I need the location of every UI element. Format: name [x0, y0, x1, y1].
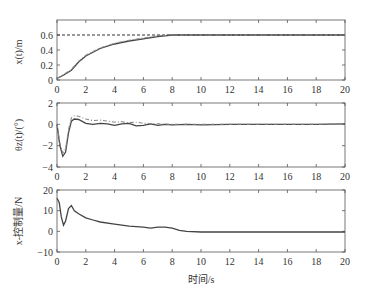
x-tick-label: 0 — [55, 171, 60, 182]
x-tick-label: 20 — [340, 256, 350, 267]
x-tick-label: 14 — [254, 171, 264, 182]
y-tick-label: 0.6 — [41, 30, 54, 41]
y-tick-label: 0.4 — [41, 45, 54, 56]
x-tick-label: 6 — [141, 256, 146, 267]
x-tick-label: 16 — [282, 256, 292, 267]
y-axis-label: θz(t)/(°) — [13, 119, 25, 151]
x-tick-label: 10 — [196, 256, 206, 267]
y-tick-label: −4 — [42, 162, 53, 173]
x-tick-label: 18 — [311, 171, 321, 182]
series-response-2 — [57, 116, 345, 153]
x-tick-label: 20 — [340, 84, 350, 95]
x-tick-label: 2 — [83, 171, 88, 182]
panel-control: 02468101214161820−1001020x-控制量/N — [12, 185, 350, 268]
panel-angle: 02468101214161820−4−202θz(t)/(°) — [13, 98, 350, 183]
x-tick-label: 8 — [170, 171, 175, 182]
x-tick-label: 10 — [196, 84, 206, 95]
x-tick-label: 18 — [311, 256, 321, 267]
x-tick-label: 14 — [254, 256, 264, 267]
plot-frame — [57, 20, 345, 80]
x-tick-label: 12 — [225, 84, 235, 95]
x-tick-label: 4 — [112, 256, 117, 267]
x-tick-label: 4 — [112, 84, 117, 95]
x-tick-label: 8 — [170, 256, 175, 267]
series-response-2 — [57, 35, 345, 79]
x-tick-label: 6 — [141, 84, 146, 95]
y-tick-label: 20 — [43, 185, 53, 196]
x-tick-label: 8 — [170, 84, 175, 95]
panel-position: 0246810121416182000.20.40.6x(t)/m — [13, 20, 350, 95]
y-tick-label: 0 — [48, 226, 53, 237]
x-tick-label: 0 — [55, 256, 60, 267]
chart-figure: 0246810121416182000.20.40.6x(t)/m 024681… — [0, 0, 369, 297]
x-tick-label: 0 — [55, 84, 60, 95]
y-tick-label: −2 — [42, 140, 53, 151]
x-tick-label: 2 — [83, 84, 88, 95]
y-tick-label: −10 — [37, 247, 53, 258]
y-tick-label: 0 — [48, 119, 53, 130]
y-axis-label: x-控制量/N — [12, 197, 24, 245]
plot-frame — [57, 190, 345, 252]
series-control — [57, 198, 345, 232]
y-tick-label: 0.2 — [41, 60, 54, 71]
x-tick-label: 12 — [225, 171, 235, 182]
x-tick-label: 2 — [83, 256, 88, 267]
y-tick-label: 2 — [48, 98, 53, 109]
y-tick-label: 0 — [48, 75, 53, 86]
x-tick-label: 16 — [282, 171, 292, 182]
series-response — [57, 35, 345, 79]
x-tick-label: 10 — [196, 171, 206, 182]
x-tick-label: 6 — [141, 171, 146, 182]
x-tick-label: 18 — [311, 84, 321, 95]
x-axis-label: 时间/s — [188, 273, 215, 285]
y-axis-label: x(t)/m — [13, 39, 25, 64]
x-tick-label: 20 — [340, 171, 350, 182]
x-tick-label: 4 — [112, 171, 117, 182]
x-tick-label: 12 — [225, 256, 235, 267]
x-tick-label: 14 — [254, 84, 264, 95]
y-tick-label: 10 — [43, 205, 53, 216]
plot-frame — [57, 103, 345, 167]
x-tick-label: 16 — [282, 84, 292, 95]
